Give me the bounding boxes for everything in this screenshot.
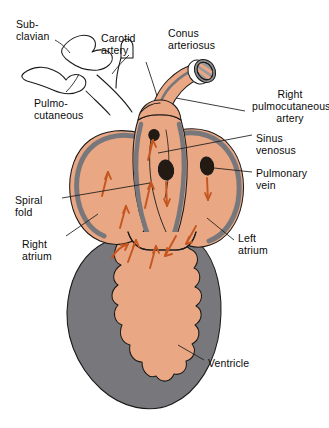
- spiral-fold-ridge: [133, 115, 187, 240]
- label-pulmonary-vein: Pulmonary vein: [256, 167, 307, 191]
- upper-ostium: [149, 129, 159, 140]
- label-conus-arteriosus: Conus arteriosus: [168, 27, 215, 51]
- label-pulmocutaneous: Pulmo- cutaneous: [34, 97, 83, 121]
- label-sinus-venosus: Sinus venosus: [256, 132, 296, 156]
- label-spiral-fold: Spiral fold: [15, 194, 42, 218]
- heart-anatomy-figure: [0, 0, 329, 428]
- label-ventricle: Ventricle: [208, 357, 249, 369]
- label-carotid-artery: Carotid artery: [101, 32, 136, 56]
- label-left-atrium: Left atrium: [238, 232, 268, 256]
- label-subclavian: Sub- clavian: [16, 18, 49, 42]
- label-right-pulmocutaneous-artery: Right pulmocutaneous artery: [252, 88, 328, 125]
- label-right-atrium: Right atrium: [22, 238, 52, 262]
